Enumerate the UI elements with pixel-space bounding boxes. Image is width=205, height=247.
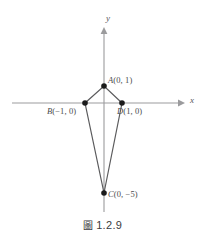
coordinate-plane: y x A(0, 1) B(−1, 0) D(1, 0) C(0, −5): [0, 0, 205, 215]
x-axis: [12, 100, 185, 107]
vertex-point-d: [119, 100, 125, 106]
vertex-point-a: [101, 83, 107, 89]
x-axis-label: x: [190, 96, 194, 105]
vertex-point-c: [101, 190, 107, 196]
point-label-c: C(0, −5): [108, 190, 138, 199]
y-axis-label: y: [106, 14, 110, 23]
vertex-point-b: [82, 100, 88, 106]
point-label-a-coords: (0, 1): [113, 75, 132, 85]
plot-svg: [0, 0, 205, 215]
point-label-c-coords: (0, −5): [114, 189, 138, 199]
figure-caption-number: 1.2.9: [93, 219, 122, 231]
point-label-b-coords: (−1, 0): [52, 106, 76, 116]
point-label-a: A(0, 1): [108, 76, 132, 85]
point-label-d: D(1, 0): [117, 107, 142, 116]
point-label-d-coords: (1, 0): [123, 106, 142, 116]
figure-caption: 圖 1.2.9: [0, 220, 205, 231]
point-label-b: B(−1, 0): [47, 107, 76, 116]
y-axis-arrowhead: [101, 27, 108, 34]
figure-container: y x A(0, 1) B(−1, 0) D(1, 0) C(0, −5) 圖 …: [0, 0, 205, 247]
figure-caption-glyph: 圖: [83, 220, 93, 231]
x-axis-arrowhead: [178, 100, 185, 107]
